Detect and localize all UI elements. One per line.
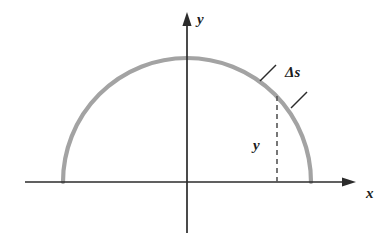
arc-element-lower-leader-icon [291,92,307,108]
y-axis-arrowhead [182,12,191,26]
x-axis-arrowhead [342,177,356,186]
ordinate-label: y [251,137,260,153]
arc-element-upper-leader-icon [260,65,276,81]
semicircle-arc-length-diagram: y x y Δs [0,0,388,238]
arc-element-label: Δs [284,64,300,80]
y-axis-label: y [195,11,204,27]
figure-canvas: y x y Δs [0,0,388,238]
x-axis-label: x [365,185,374,201]
